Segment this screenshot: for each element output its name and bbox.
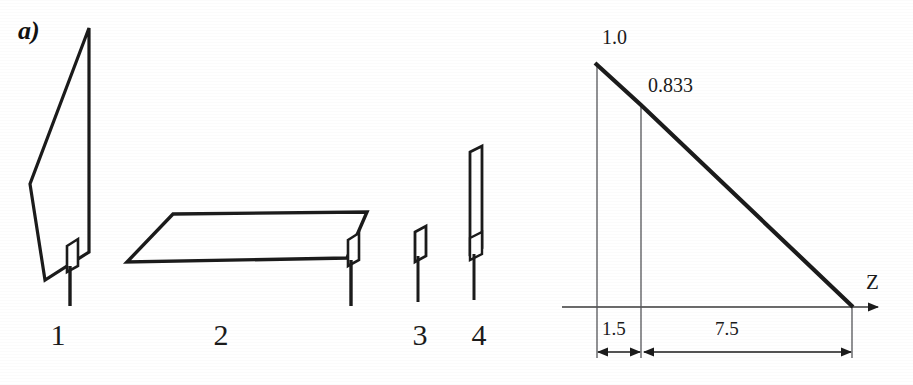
chart-value-mid: 0.833 (648, 74, 693, 97)
probe-3-number: 3 (400, 318, 440, 352)
figure-root: a) (0, 0, 913, 385)
panel-a: a) (0, 0, 520, 385)
probe-4-number: 4 (459, 318, 499, 352)
chart-x-axis-label: Z (866, 270, 879, 295)
probe-3-graphic (415, 226, 426, 302)
chart-value-top: 1.0 (602, 26, 627, 49)
probe-4-graphic (470, 146, 482, 300)
chart-data-line (595, 63, 853, 307)
panel-a-drawing (0, 0, 520, 385)
probe-2-graphic (127, 212, 367, 306)
probe-1-plane (30, 28, 89, 280)
chart-dimension-label-left: 1.5 (602, 318, 626, 340)
probe-2-plane (127, 212, 367, 262)
probe-1-graphic (30, 28, 89, 306)
probe-4-clamp (470, 232, 482, 260)
chart-dimension-label-right: 7.5 (715, 318, 739, 340)
probe-1-number: 1 (38, 318, 78, 352)
probe-2-number: 2 (201, 318, 241, 352)
